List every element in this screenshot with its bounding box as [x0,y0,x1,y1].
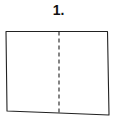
paper-fold-diagram [0,0,113,119]
paper-outline [6,32,109,116]
